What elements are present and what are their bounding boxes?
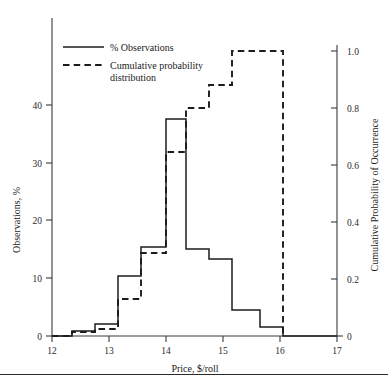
x-tick-label-16: 16	[275, 346, 285, 356]
y-axis-right-tick-labels: 0 0.2 0.4 0.6 0.8 1.0	[347, 47, 359, 342]
y-axis-left-title: Observations, %	[11, 187, 22, 253]
y-axis-right-title: Cumulative Probability of Occurrence	[369, 118, 380, 272]
y-tick-label-20: 20	[33, 216, 43, 226]
y-tick-label-10: 10	[33, 274, 43, 284]
y-tick-label-30: 30	[33, 159, 43, 169]
series-observations-line	[52, 119, 337, 336]
x-tick-label-15: 15	[218, 346, 228, 356]
x-tick-label-13: 13	[104, 346, 114, 356]
x-axis-title: Price, $/roll	[171, 363, 218, 374]
chart-figure: 12 13 14 15 16 17 0 10 20 30 40 0 0.2 0.…	[0, 0, 388, 384]
chart-legend: % Observations Cumulative probability di…	[63, 42, 203, 83]
x-axis-tick-labels: 12 13 14 15 16 17	[47, 346, 342, 356]
y2-tick-label-0-2: 0.2	[347, 275, 359, 285]
legend-label-cumulative: Cumulative probability	[110, 60, 203, 71]
x-axis-ticks	[52, 336, 337, 342]
y2-tick-label-0: 0	[347, 332, 352, 342]
y2-tick-label-1-0: 1.0	[347, 47, 359, 57]
price-distribution-chart: 12 13 14 15 16 17 0 10 20 30 40 0 0.2 0.…	[0, 0, 388, 384]
y2-tick-label-0-6: 0.6	[347, 161, 359, 171]
y-axis-left-ticks	[46, 105, 52, 336]
x-tick-label-12: 12	[47, 346, 57, 356]
y2-tick-label-0-8: 0.8	[347, 104, 359, 114]
series-cumulative-line	[52, 51, 283, 336]
x-tick-label-17: 17	[332, 346, 342, 356]
y2-tick-label-0-4: 0.4	[347, 218, 359, 228]
legend-label-observations: % Observations	[110, 42, 174, 53]
y-axis-left-tick-labels: 0 10 20 30 40	[33, 101, 43, 342]
y-tick-label-0: 0	[37, 332, 42, 342]
legend-label-cumulative-line2: distribution	[110, 72, 156, 83]
y-tick-label-40: 40	[33, 101, 43, 111]
footer-divider	[0, 374, 388, 375]
x-tick-label-14: 14	[161, 346, 171, 356]
